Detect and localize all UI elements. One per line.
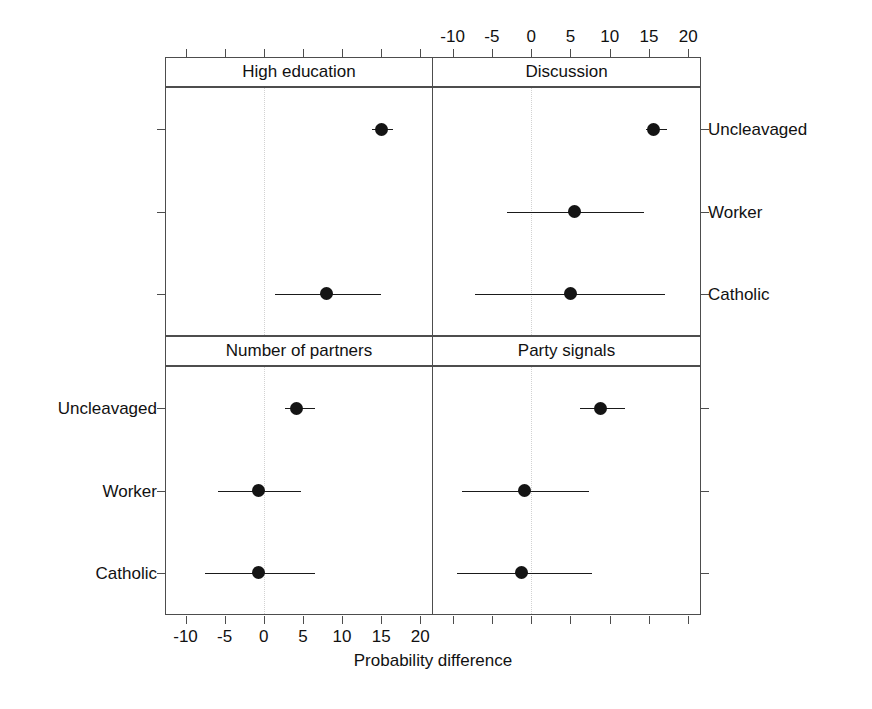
x-tick-label: -5 (484, 28, 499, 45)
data-point-marker[interactable] (518, 484, 531, 497)
y-tick-mark (701, 408, 709, 409)
panel-discussion (432, 87, 701, 336)
data-point-marker[interactable] (252, 484, 265, 497)
data-point-marker[interactable] (375, 123, 388, 136)
x-tick-mark (610, 616, 611, 624)
x-tick-mark (531, 49, 532, 57)
x-tick-mark (303, 616, 304, 624)
y-tick-mark (157, 294, 165, 295)
x-tick-label: 0 (259, 628, 268, 645)
x-tick-label: 10 (333, 628, 352, 645)
x-tick-mark (342, 616, 343, 624)
x-tick-label: 10 (600, 28, 619, 45)
strip-label-number-of-partners: Number of partners (226, 341, 372, 361)
data-point-marker[interactable] (290, 402, 303, 415)
x-tick-label: -10 (173, 628, 198, 645)
y-axis-label-worker-top: Worker (708, 203, 762, 220)
strip-label-high-education: High education (242, 62, 355, 82)
x-tick-label: 20 (411, 628, 430, 645)
x-tick-mark (453, 616, 454, 624)
x-tick-label: 20 (679, 28, 698, 45)
y-tick-mark (157, 212, 165, 213)
x-tick-mark (420, 616, 421, 624)
x-tick-mark (492, 616, 493, 624)
data-point-marker[interactable] (320, 287, 333, 300)
x-tick-label: -5 (217, 628, 232, 645)
y-axis-label-uncleavaged-top: Uncleavaged (708, 121, 807, 138)
x-tick-mark (225, 616, 226, 624)
y-tick-mark (157, 573, 165, 574)
y-tick-mark (701, 573, 709, 574)
x-tick-mark (453, 49, 454, 57)
x-tick-mark (570, 49, 571, 57)
y-tick-mark (701, 491, 709, 492)
strip-label-discussion: Discussion (525, 62, 607, 82)
y-tick-mark (157, 408, 165, 409)
y-axis-label-catholic-bottom: Catholic (96, 564, 157, 581)
x-tick-mark (264, 616, 265, 624)
strip-party-signals: Party signals (432, 336, 701, 366)
data-point-marker[interactable] (564, 287, 577, 300)
panel-number-of-partners (165, 366, 433, 615)
x-tick-label: 15 (372, 628, 391, 645)
x-tick-label: 5 (298, 628, 307, 645)
data-point-marker[interactable] (515, 566, 528, 579)
x-tick-mark (649, 616, 650, 624)
y-axis-label-worker-bottom: Worker (103, 482, 157, 499)
x-tick-mark (688, 49, 689, 57)
zero-reference-line (264, 88, 266, 335)
strip-high-education: High education (165, 57, 433, 87)
x-tick-mark (186, 49, 187, 57)
data-point-marker[interactable] (647, 123, 660, 136)
x-tick-mark (225, 49, 226, 57)
strip-number-of-partners: Number of partners (165, 336, 433, 366)
x-tick-mark (570, 616, 571, 624)
x-tick-mark (610, 49, 611, 57)
x-tick-mark (303, 49, 304, 57)
x-tick-label: 0 (526, 28, 535, 45)
x-tick-mark (420, 49, 421, 57)
panel-party-signals (432, 366, 701, 615)
y-axis-label-uncleavaged-bottom: Uncleavaged (58, 400, 157, 417)
x-tick-mark (381, 49, 382, 57)
y-tick-mark (157, 491, 165, 492)
x-axis-title: Probability difference (354, 652, 512, 669)
y-axis-label-catholic-top: Catholic (708, 285, 769, 302)
x-tick-mark (688, 616, 689, 624)
x-tick-label: 15 (639, 28, 658, 45)
strip-label-party-signals: Party signals (518, 341, 615, 361)
x-tick-mark (531, 616, 532, 624)
x-tick-mark (186, 616, 187, 624)
data-point-marker[interactable] (568, 205, 581, 218)
x-tick-mark (492, 49, 493, 57)
x-tick-label: -10 (440, 28, 465, 45)
y-tick-mark (157, 129, 165, 130)
strip-discussion: Discussion (432, 57, 701, 87)
x-tick-mark (381, 616, 382, 624)
x-tick-label: 5 (566, 28, 575, 45)
panel-high-education (165, 87, 433, 336)
x-tick-mark (264, 49, 265, 57)
x-tick-mark (649, 49, 650, 57)
data-point-marker[interactable] (594, 402, 607, 415)
chart-canvas: -10-505101520 High education Discussion … (0, 0, 872, 709)
x-tick-mark (342, 49, 343, 57)
